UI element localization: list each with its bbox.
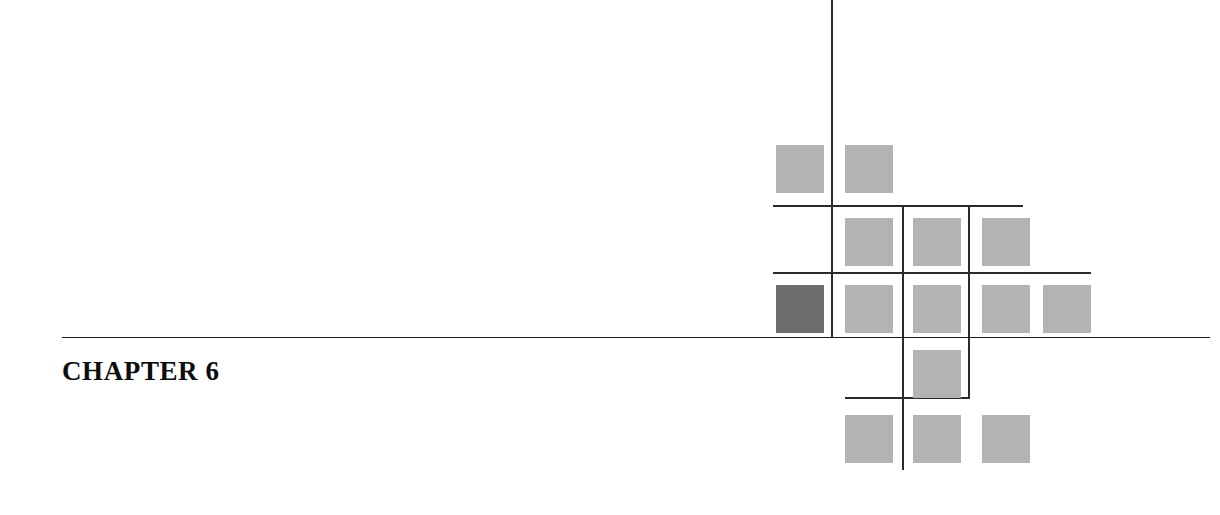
decorative-square	[982, 218, 1030, 266]
decorative-square	[913, 285, 961, 333]
decorative-square	[982, 285, 1030, 333]
decorative-square	[845, 145, 893, 193]
decorative-square	[913, 218, 961, 266]
decorative-square	[845, 415, 893, 463]
chapter-divider-rule	[62, 337, 1210, 338]
hline-2	[773, 272, 1091, 274]
page-title: CHAPTER 6	[62, 356, 220, 387]
decorative-square	[845, 285, 893, 333]
vline-1	[831, 0, 833, 338]
decorative-square	[913, 350, 961, 398]
decorative-square	[982, 415, 1030, 463]
decorative-square	[776, 145, 824, 193]
decorative-square	[1043, 285, 1091, 333]
decorative-square	[845, 218, 893, 266]
vline-3	[968, 205, 970, 399]
chapter-opener-page: CHAPTER 6	[0, 0, 1220, 515]
hline-1	[773, 205, 1023, 207]
decorative-square	[776, 285, 824, 333]
decorative-square	[913, 415, 961, 463]
